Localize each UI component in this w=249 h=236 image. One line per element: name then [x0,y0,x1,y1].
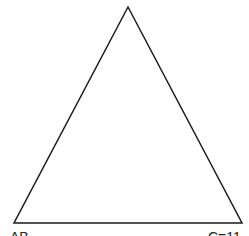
triangle-shape [14,7,242,223]
triangle-diagram [0,0,249,236]
vertex-label-bottom-left: AB [10,229,29,236]
vertex-label-bottom-right: C=11 [208,229,241,236]
